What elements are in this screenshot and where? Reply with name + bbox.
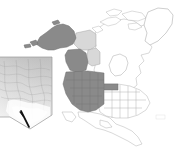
nevada-inset-map — [0, 55, 58, 133]
region-yukon — [74, 30, 96, 50]
region-alaska — [24, 20, 76, 50]
map-figure — [0, 0, 176, 149]
region-greenland — [144, 8, 173, 45]
region-british-columbia — [65, 49, 88, 73]
nevada-inset — [0, 55, 58, 133]
corner-annotation — [156, 115, 165, 119]
inset-terrain — [0, 55, 58, 133]
region-alberta — [86, 48, 100, 66]
